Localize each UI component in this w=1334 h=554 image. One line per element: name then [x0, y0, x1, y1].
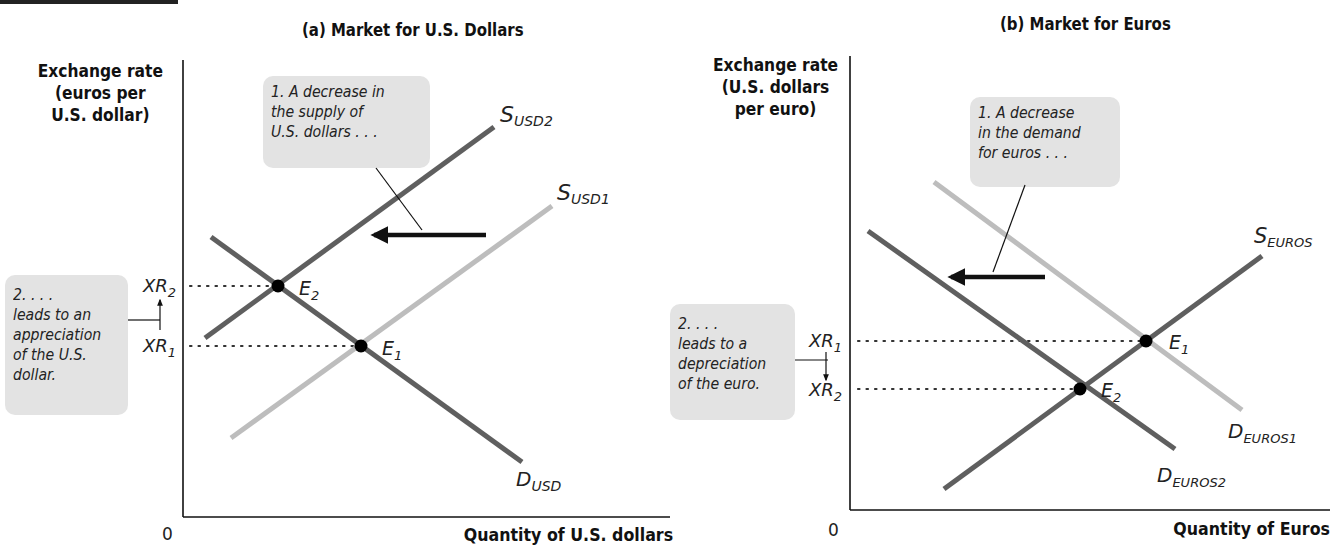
equilibrium-e1-point: [1140, 335, 1153, 348]
demand-euros1-curve: [934, 182, 1242, 410]
supply-euros-curve: [944, 256, 1262, 489]
e2-label: E2: [299, 277, 319, 303]
e1-label: E1: [382, 337, 402, 363]
demand-euros1-label: DEUROS1: [1228, 419, 1297, 446]
supply-usd1-label: SUSD1: [557, 180, 610, 207]
panel-b-plot: XR1 XR2 E1 E2 SEUROS DEUROS1 DEUROS2: [795, 56, 1330, 510]
supply-usd2-curve: [205, 127, 494, 338]
equilibrium-e2-point: [1074, 383, 1087, 396]
xr2-tick-label: XR2: [142, 275, 176, 300]
supply-usd1-curve: [231, 206, 552, 438]
equilibrium-e2-point: [272, 280, 285, 293]
demand-usd-curve: [211, 237, 522, 462]
panel-a-plot: XR2 XR1 E2 E1 SUSD2 SUSD1 DUSD: [128, 60, 670, 517]
equilibrium-e1-point: [355, 340, 368, 353]
e1-label: E1: [1169, 331, 1189, 357]
supply-usd2-label: SUSD2: [500, 102, 553, 129]
demand-euros2-curve: [868, 231, 1175, 449]
xr2-tick-label: XR2: [808, 379, 842, 404]
xr1-tick-label: XR1: [808, 330, 842, 355]
demand-euros2-label: DEUROS2: [1157, 463, 1226, 490]
demand-usd-label: DUSD: [516, 467, 562, 494]
xr1-tick-label: XR1: [142, 335, 176, 360]
charts-canvas: XR2 XR1 E2 E1 SUSD2 SUSD1 DUSD XR1 XR2 E…: [0, 0, 1334, 554]
supply-euros-label: SEUROS: [1254, 224, 1313, 250]
note1-leader-line: [376, 168, 422, 230]
